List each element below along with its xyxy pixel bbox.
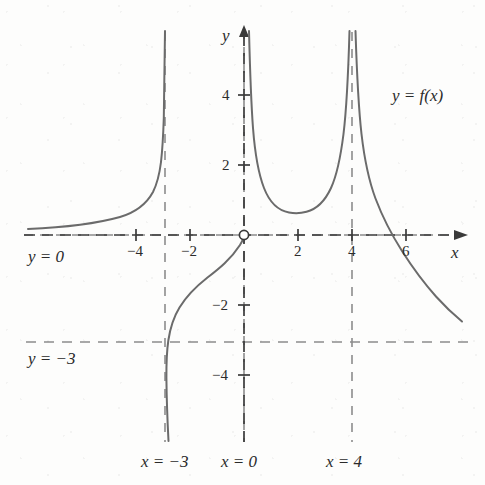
label-horizontal-asymptote-y-neg3: y = −3 [28, 350, 76, 367]
curve-branch-middle [249, 31, 350, 213]
y-tick-label-minus2: −2 [212, 298, 228, 313]
x-tick-label-minus2: −2 [181, 244, 197, 259]
curve-branch-left-lower [166, 237, 244, 441]
x-tick-label-minus4: −4 [127, 244, 143, 259]
graph-figure: −4 −2 2 4 6 4 2 −2 −4 x y y = 0 y = −3 x… [0, 0, 485, 485]
label-function-y-equals-f-of-x: y = f(x) [392, 87, 443, 104]
y-tick-label-2: 2 [222, 158, 230, 173]
x-axis-name: x [451, 244, 459, 261]
x-tick-label-4: 4 [348, 244, 356, 259]
label-vertical-asymptote-x-4: x = 4 [326, 453, 362, 470]
y-tick-label-minus4: −4 [212, 368, 228, 383]
origin-hole-marker [239, 230, 248, 239]
label-vertical-asymptote-x-neg3: x = −3 [141, 453, 189, 470]
x-tick-label-6: 6 [402, 244, 410, 259]
y-axis-name: y [222, 27, 230, 44]
function-plot [0, 0, 485, 485]
curve-branch-left [28, 31, 165, 229]
label-horizontal-asymptote-y0: y = 0 [28, 248, 64, 265]
x-tick-label-2: 2 [294, 244, 302, 259]
y-tick-label-4: 4 [222, 88, 230, 103]
label-vertical-asymptote-x-0: x = 0 [221, 453, 257, 470]
curve-branch-right [356, 31, 463, 322]
